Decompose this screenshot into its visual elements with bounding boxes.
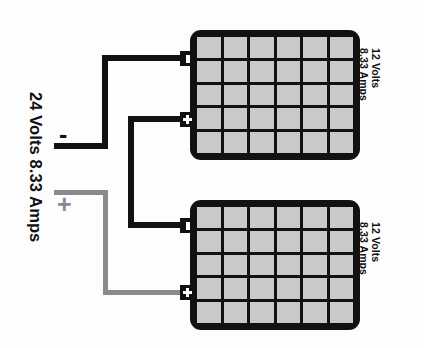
battery-bottom-cell-grid: [197, 207, 353, 323]
load-positive-wire-riser: [103, 190, 108, 295]
battery-cell: [197, 132, 221, 153]
battery-cell: [330, 231, 354, 252]
battery-bottom: [190, 200, 360, 330]
battery-cell: [224, 255, 248, 276]
battery-bottom-amps: 8.33 Amps: [358, 222, 370, 275]
battery-top-label: 12 Volts 8.33 Amps: [358, 48, 382, 101]
battery-bottom-negative-terminal: [180, 218, 195, 233]
battery-cell: [303, 278, 327, 299]
plus-icon: [183, 115, 192, 124]
battery-bottom-label: 12 Volts 8.33 Amps: [358, 222, 382, 275]
negative-sign-glyph: -: [59, 122, 67, 147]
battery-cell: [303, 37, 327, 58]
battery-cell: [277, 108, 301, 129]
battery-cell: [197, 302, 221, 323]
battery-cell: [250, 302, 274, 323]
battery-cell: [250, 37, 274, 58]
battery-cell: [303, 231, 327, 252]
battery-cell: [224, 132, 248, 153]
battery-cell: [197, 278, 221, 299]
battery-cell: [250, 61, 274, 82]
series-link-wire-top-segment: [128, 116, 188, 122]
battery-cell: [303, 207, 327, 228]
series-link-wire-vertical: [128, 116, 134, 228]
battery-cell: [224, 85, 248, 106]
battery-cell: [197, 85, 221, 106]
battery-cell: [250, 231, 274, 252]
battery-cell: [330, 85, 354, 106]
series-link-wire-bottom-segment: [128, 222, 188, 228]
battery-cell: [277, 132, 301, 153]
battery-cell: [250, 108, 274, 129]
battery-cell: [224, 302, 248, 323]
battery-cell: [224, 37, 248, 58]
battery-top-amps: 8.33 Amps: [358, 48, 370, 101]
battery-cell: [330, 302, 354, 323]
battery-cell: [330, 108, 354, 129]
battery-top-positive-terminal: [180, 112, 195, 127]
battery-cell: [303, 85, 327, 106]
battery-cell: [330, 61, 354, 82]
battery-cell: [224, 278, 248, 299]
battery-cell: [277, 278, 301, 299]
battery-cell: [277, 61, 301, 82]
battery-cell: [197, 231, 221, 252]
battery-cell: [250, 85, 274, 106]
battery-cell: [277, 255, 301, 276]
battery-cell: [250, 207, 274, 228]
battery-top-volts: 12 Volts: [370, 48, 382, 101]
system-output-label: 24 Volts 8.33 Amps: [26, 92, 45, 242]
battery-cell: [277, 85, 301, 106]
battery-top-negative-terminal: [180, 51, 195, 66]
battery-cell: [303, 132, 327, 153]
battery-bottom-positive-terminal: [180, 285, 195, 300]
battery-cell: [197, 37, 221, 58]
battery-cell: [197, 108, 221, 129]
battery-cell: [224, 61, 248, 82]
battery-cell: [303, 61, 327, 82]
load-negative-wire-to-terminal: [102, 55, 188, 61]
battery-cell: [330, 37, 354, 58]
battery-cell: [303, 108, 327, 129]
battery-cell: [277, 37, 301, 58]
battery-cell: [330, 132, 354, 153]
battery-cell: [250, 132, 274, 153]
battery-bottom-volts: 12 Volts: [370, 222, 382, 275]
battery-cell: [277, 302, 301, 323]
battery-cell: [197, 255, 221, 276]
load-positive-wire-to-terminal: [103, 290, 188, 295]
minus-icon: [186, 222, 190, 230]
battery-wiring-diagram: 12 Volts 8.33 Amps: [0, 0, 424, 348]
battery-cell: [197, 207, 221, 228]
positive-sign-glyph: +: [57, 192, 72, 217]
battery-cell: [330, 207, 354, 228]
battery-cell: [250, 255, 274, 276]
battery-cell: [303, 302, 327, 323]
plus-icon: [183, 288, 192, 297]
battery-cell: [330, 278, 354, 299]
battery-cell: [277, 207, 301, 228]
load-negative-wire-riser: [102, 55, 108, 149]
battery-cell: [303, 255, 327, 276]
battery-cell: [197, 61, 221, 82]
battery-cell: [224, 207, 248, 228]
battery-cell: [330, 255, 354, 276]
minus-icon: [186, 55, 190, 63]
battery-cell: [224, 108, 248, 129]
battery-cell: [250, 278, 274, 299]
battery-cell: [224, 231, 248, 252]
battery-top-cell-grid: [197, 37, 353, 153]
battery-top: [190, 30, 360, 160]
battery-cell: [277, 231, 301, 252]
